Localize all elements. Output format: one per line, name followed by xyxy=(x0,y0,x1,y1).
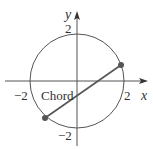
y-tick-2: 2 xyxy=(65,21,72,36)
x-axis-label: x xyxy=(140,88,148,103)
chord-label: Chord xyxy=(41,88,74,103)
chord-endpoint-upper xyxy=(118,62,124,68)
x-tick-2: 2 xyxy=(124,88,131,103)
x-tick-neg2: −2 xyxy=(14,88,28,103)
y-axis-label: y xyxy=(63,7,72,22)
chord-diagram: y 2 −2 2 x Chord −2 xyxy=(0,0,153,150)
y-tick-neg2: −2 xyxy=(58,128,72,143)
chord-endpoint-lower xyxy=(42,115,48,121)
diagram-canvas: y 2 −2 2 x Chord −2 xyxy=(0,0,153,150)
